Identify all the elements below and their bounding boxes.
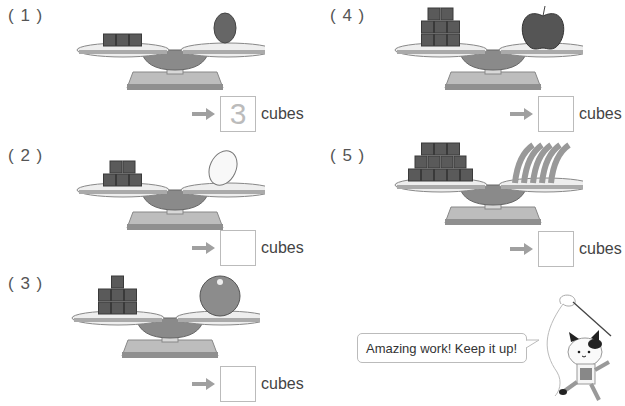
cube [435,21,447,33]
right-pan-edge [183,190,265,194]
scale-base-front [122,352,218,358]
cube [125,289,137,301]
left-pan-edge [79,50,167,54]
unit-label-5: cubes [579,240,622,258]
mango-icon [214,13,236,43]
apple-stem [543,6,545,16]
answer-box-1[interactable]: 3 [220,96,256,132]
cube [428,8,440,20]
problem-5-label: ( 5 ) [330,146,365,166]
cube [112,276,124,288]
scale-base-front [445,84,541,90]
problem-3-label: ( 3 ) [8,274,43,294]
arrow-right-icon [510,107,534,121]
cube [435,169,447,181]
scale-base-front [445,219,541,225]
cube [112,302,124,314]
unit-label-3: cubes [261,375,304,393]
scale-5 [393,135,583,235]
cube [117,174,129,186]
left-pan-edge [74,318,162,322]
cube [428,156,440,168]
answer-box-4[interactable] [538,96,574,132]
cube [435,143,447,155]
right-pan-edge [501,50,583,54]
cube [422,34,434,46]
right-pan-edge [183,50,265,54]
cube [422,143,434,155]
answer-row-2: cubes [192,230,304,266]
arrow-right-icon [192,241,216,255]
scale-base-front [127,84,223,90]
cube [441,8,453,20]
problem-1-label: ( 1 ) [8,6,43,26]
cube [130,174,142,186]
answer-box-3[interactable] [220,366,256,402]
speech-bubble-text: Amazing work! Keep it up! [366,341,517,356]
cube [117,34,129,46]
cube [110,161,122,173]
problem-2-label: ( 2 ) [8,146,43,166]
answer-row-1: 3 cubes [192,96,304,132]
unit-label-2: cubes [261,239,304,257]
cube [448,169,460,181]
apple-icon [522,14,564,49]
answer-row-3: cubes [192,366,304,402]
left-pan-edge [79,190,167,194]
cube [435,34,447,46]
unit-label-1: cubes [261,105,304,123]
cube [461,169,473,181]
cube [130,34,142,46]
cube [422,21,434,33]
scale-3 [70,268,260,368]
orange-stem [217,279,223,285]
cube [99,289,111,301]
cube [104,174,116,186]
left-pan-edge [397,185,485,189]
problem-4-label: ( 4 ) [330,6,365,26]
right-pan-edge [501,185,583,189]
scale-1 [75,0,265,95]
cube [123,161,135,173]
cube [104,34,116,46]
scale-2 [75,140,265,235]
left-pan-edge [397,50,485,54]
cube [441,156,453,168]
right-pan-edge [178,318,260,322]
answer-box-2[interactable] [220,230,256,266]
arrow-right-icon [192,107,216,121]
unit-label-4: cubes [579,105,622,123]
cat-with-ribbon-icon [533,292,623,404]
cube [454,156,466,168]
answer-row-4: cubes [510,96,622,132]
cube [448,21,460,33]
answer-box-5[interactable] [538,231,574,267]
cube [112,289,124,301]
arrow-right-icon [510,242,534,256]
speech-bubble: Amazing work! Keep it up! [357,333,527,363]
cube [409,169,421,181]
cube [422,169,434,181]
cube [415,156,427,168]
arrow-right-icon [192,377,216,391]
cube [448,143,460,155]
answer-row-5: cubes [510,231,622,267]
cube [448,34,460,46]
scale-4 [393,0,583,95]
cube [125,302,137,314]
cube [99,302,111,314]
